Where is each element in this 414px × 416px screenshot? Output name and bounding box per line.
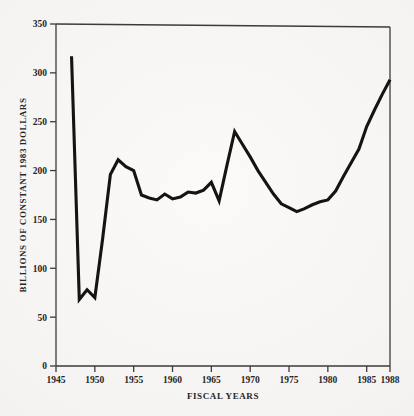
axis-frame [56,24,390,366]
y-tick-label-300: 300 [33,68,48,78]
chart-page: 050100150200250300350 194519501955196019… [0,0,414,416]
y-axis-ticks [50,24,56,366]
x-tick-label-1975: 1975 [280,375,299,385]
top-frame-line [56,24,390,27]
x-tick-label-1970: 1970 [241,375,260,385]
y-tick-label-50: 50 [38,313,48,323]
defense-spending-line-chart: 050100150200250300350 194519501955196019… [0,0,414,416]
y-tick-label-150: 150 [33,215,48,225]
x-axis-tick-labels: 1945195019551960196519701975198019851988 [47,375,400,385]
x-tick-label-1945: 1945 [47,375,66,385]
x-axis-ticks [56,366,390,372]
y-tick-label-350: 350 [33,19,48,29]
x-axis-title: FISCAL YEARS [187,391,259,401]
x-tick-label-1965: 1965 [202,375,221,385]
y-tick-label-0: 0 [42,361,47,371]
x-tick-label-1955: 1955 [124,375,143,385]
y-axis-title: BILLIONS OF CONSTANT 1983 DOLLARS [18,97,28,292]
y-axis-tick-labels: 050100150200250300350 [33,19,48,371]
x-tick-label-1985: 1985 [357,375,376,385]
y-tick-label-100: 100 [33,264,48,274]
x-tick-label-1980: 1980 [318,375,337,385]
series-defense-outlays [72,56,390,299]
y-tick-label-250: 250 [33,117,48,127]
x-tick-label-1950: 1950 [85,375,104,385]
x-tick-label-1960: 1960 [163,375,182,385]
x-tick-label-1988: 1988 [381,375,400,385]
y-tick-label-200: 200 [33,166,48,176]
